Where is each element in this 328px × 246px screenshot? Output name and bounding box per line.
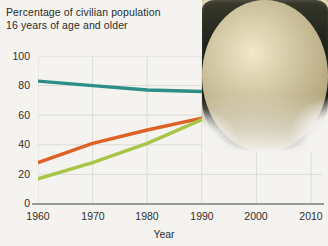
x-tick-label-1960: 1960 (18, 210, 58, 222)
chart-title-line-2: 16 years of age and older (6, 19, 216, 32)
y-tick-label-40: 40 (0, 138, 30, 150)
y-tick-label-20: 20 (0, 168, 30, 180)
x-tick-label-1970: 1970 (73, 210, 113, 222)
chart-title-line-1: Percentage of civilian population (6, 6, 216, 19)
series-line-men (38, 81, 311, 97)
x-tick-label-2010: 2010 (291, 210, 328, 222)
x-axis-line (32, 203, 324, 205)
x-tick-label-2000: 2000 (236, 210, 276, 222)
plot-area (38, 56, 322, 204)
series-lines (38, 81, 311, 179)
x-axis-title: Year (0, 228, 328, 240)
y-tick-label-60: 60 (0, 109, 30, 121)
y-tick-label-100: 100 (0, 50, 30, 62)
series-line-all (38, 115, 311, 162)
y-tick-label-0: 0 (0, 197, 30, 209)
chart-figure: Percentage of civilian population 16 yea… (0, 0, 328, 246)
y-tick-label-80: 80 (0, 79, 30, 91)
x-tick-label-1990: 1990 (182, 210, 222, 222)
chart-title: Percentage of civilian population 16 yea… (6, 6, 216, 32)
x-tick-label-1980: 1980 (127, 210, 167, 222)
plot-svg (38, 56, 322, 204)
